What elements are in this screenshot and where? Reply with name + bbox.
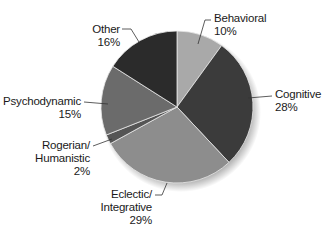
label-eclectic: Eclectic/ Integrative 29% — [101, 188, 153, 227]
label-rogerian-line2: Humanistic — [35, 152, 90, 165]
label-rogerian-pct: 2% — [35, 165, 90, 178]
label-cognitive: Cognitive 28% — [275, 88, 321, 114]
label-other-name: Other — [92, 23, 120, 36]
label-behavioral: Behavioral 10% — [214, 12, 266, 38]
label-cognitive-name: Cognitive — [275, 88, 321, 101]
label-eclectic-line1: Eclectic/ — [101, 188, 153, 201]
label-psychodynamic-name: Psychodynamic — [3, 95, 81, 108]
leader-other — [122, 29, 139, 42]
label-other: Other 16% — [92, 23, 120, 49]
label-psychodynamic: Psychodynamic 15% — [3, 95, 81, 121]
label-rogerian-line1: Rogerian/ — [35, 139, 90, 152]
pie-slices — [101, 31, 253, 183]
label-psychodynamic-pct: 15% — [3, 108, 81, 121]
label-eclectic-pct: 29% — [101, 214, 153, 227]
label-eclectic-line2: Integrative — [101, 201, 153, 214]
label-behavioral-name: Behavioral — [214, 12, 266, 25]
label-rogerian: Rogerian/ Humanistic 2% — [35, 139, 90, 178]
label-behavioral-pct: 10% — [214, 25, 266, 38]
label-other-pct: 16% — [92, 36, 120, 49]
label-cognitive-pct: 28% — [275, 101, 321, 114]
